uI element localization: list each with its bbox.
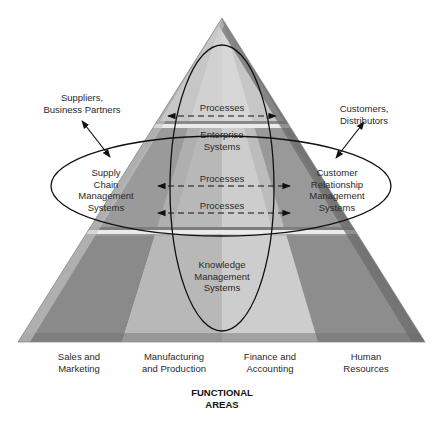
processes-label-1: Processes bbox=[200, 102, 244, 114]
base-bevel bbox=[0, 333, 434, 342]
band-lower-dark bbox=[0, 227, 434, 230]
functional-area-sales: Sales and Marketing bbox=[58, 351, 100, 374]
functional-area-manufacturing: Manufacturing and Production bbox=[142, 351, 206, 374]
functional-areas-title: FUNCTIONAL AREAS bbox=[191, 387, 253, 410]
processes-label-3: Processes bbox=[200, 200, 244, 212]
enterprise-systems-label: Enterprise Systems bbox=[200, 129, 243, 152]
customers-label: Customers, Distributors bbox=[340, 103, 389, 126]
functional-area-hr: Human Resources bbox=[343, 351, 388, 374]
crm-label: Customer Relationship Management Systems bbox=[309, 167, 364, 213]
processes-label-2: Processes bbox=[200, 173, 244, 185]
suppliers-label: Suppliers, Business Partners bbox=[43, 92, 120, 115]
band-lower-light bbox=[0, 230, 434, 234]
kms-label: Knowledge Management Systems bbox=[194, 259, 249, 294]
customers-arrow bbox=[336, 122, 364, 158]
scm-label: Supply Chain Management Systems bbox=[78, 167, 133, 213]
functional-area-finance: Finance and Accounting bbox=[244, 351, 296, 374]
